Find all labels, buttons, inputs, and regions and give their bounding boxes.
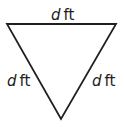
top-side-label: dft bbox=[51, 6, 75, 24]
triangle-diagram: dft dft dft bbox=[0, 0, 125, 127]
right-side-label: dft bbox=[92, 72, 116, 90]
left-side-label: dft bbox=[7, 72, 31, 90]
